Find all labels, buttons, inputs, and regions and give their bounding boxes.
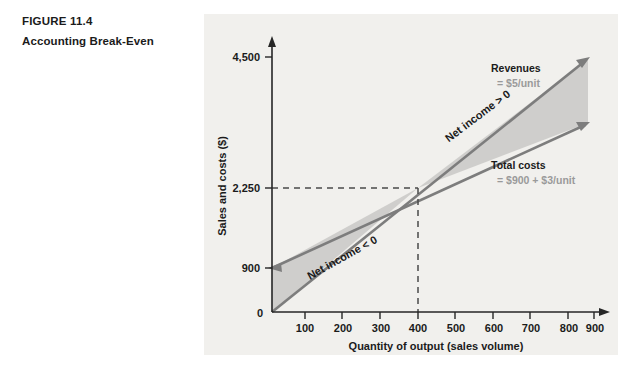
total-costs-line — [272, 125, 585, 268]
revenues-annotation-label: Revenues — [491, 62, 541, 74]
y-tick-label-0: 0 — [257, 307, 263, 319]
x-tick-label-700: 700 — [522, 322, 540, 334]
y-tick-label-2250: 2,250 — [232, 182, 260, 194]
total-costs-annotation-formula: = $900 + $3/unit — [497, 174, 576, 186]
chart-panel: 4,500 2,250 900 0 100 200 300 400 500 60… — [204, 14, 618, 355]
x-tick-label-200: 200 — [334, 322, 352, 334]
revenues-annotation-formula: = $5/unit — [497, 77, 540, 89]
figure-number: FIGURE 11.4 — [22, 14, 197, 29]
y-tick-label-900: 900 — [242, 262, 260, 274]
x-tick-label-300: 300 — [372, 322, 390, 334]
x-tick-label-400: 400 — [409, 322, 427, 334]
x-tick-label-800: 800 — [560, 322, 578, 334]
y-axis-title: Sales and costs ($) — [216, 136, 228, 236]
x-axis-title: Quantity of output (sales volume) — [349, 340, 524, 352]
x-tick-label-900: 900 — [586, 322, 604, 334]
total-costs-annotation-label: Total costs — [491, 159, 546, 171]
figure-caption: FIGURE 11.4 Accounting Break-Even — [22, 14, 197, 49]
x-tick-label-100: 100 — [296, 322, 314, 334]
figure-title: Accounting Break-Even — [22, 34, 197, 49]
y-tick-label-4500: 4,500 — [232, 51, 260, 63]
x-tick-label-500: 500 — [447, 322, 465, 334]
x-tick-label-600: 600 — [485, 322, 503, 334]
x-axis-arrowhead — [599, 308, 610, 316]
y-axis-arrowhead — [268, 36, 276, 47]
breakeven-chart: 4,500 2,250 900 0 100 200 300 400 500 60… — [204, 14, 618, 355]
